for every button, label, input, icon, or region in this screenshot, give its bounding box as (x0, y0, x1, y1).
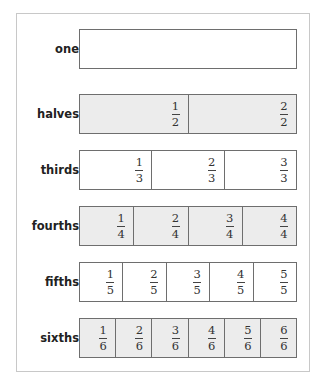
fraction: 44 (278, 212, 290, 241)
denominator: 3 (280, 172, 287, 185)
fraction: 15 (104, 268, 116, 297)
fraction-strips-frame: one halves 12 22 thirds 13 23 33 fourths… (16, 13, 310, 372)
numerator: 1 (100, 324, 107, 337)
strip-cell: 36 (151, 319, 187, 357)
denominator: 2 (280, 116, 287, 129)
strip-cell: 24 (133, 207, 187, 245)
numerator: 3 (226, 212, 233, 225)
denominator: 4 (172, 228, 179, 241)
numerator: 1 (107, 268, 114, 281)
fraction: 12 (170, 100, 182, 129)
strip-cell: 33 (224, 151, 296, 189)
strip-cell: 66 (260, 319, 296, 357)
denominator: 6 (208, 340, 215, 353)
strip-one (79, 29, 297, 69)
fraction: 26 (133, 324, 145, 353)
denominator: 4 (118, 228, 125, 241)
fraction: 45 (235, 268, 247, 297)
fraction: 22 (278, 100, 290, 129)
row-label: fifths (45, 262, 79, 302)
fraction: 24 (170, 212, 182, 241)
strip-thirds: 13 23 33 (79, 150, 297, 190)
row-sixths: sixths 16 26 36 46 56 66 (17, 318, 309, 358)
row-label: thirds (41, 150, 79, 190)
strip-cell: 44 (242, 207, 296, 245)
denominator: 5 (194, 284, 201, 297)
strip-cell: 13 (80, 151, 151, 189)
fraction: 46 (206, 324, 218, 353)
fraction: 34 (224, 212, 236, 241)
strip-cell: 55 (253, 263, 296, 301)
numerator: 4 (237, 268, 244, 281)
numerator: 1 (172, 100, 179, 113)
strip-cell: 14 (80, 207, 133, 245)
fraction: 55 (278, 268, 290, 297)
row-one: one (17, 29, 309, 69)
row-label: one (55, 29, 79, 69)
denominator: 5 (280, 284, 287, 297)
strip-cell: 56 (224, 319, 260, 357)
strip-cell: 45 (209, 263, 252, 301)
denominator: 3 (136, 172, 143, 185)
row-label: sixths (40, 318, 79, 358)
strip-cell: 15 (80, 263, 122, 301)
fraction: 14 (115, 212, 127, 241)
denominator: 4 (226, 228, 233, 241)
row-thirds: thirds 13 23 33 (17, 150, 309, 190)
numerator: 4 (208, 324, 215, 337)
denominator: 6 (136, 340, 143, 353)
numerator: 2 (172, 212, 179, 225)
strip-cell: 34 (188, 207, 242, 245)
numerator: 1 (118, 212, 125, 225)
fraction: 25 (148, 268, 160, 297)
denominator: 2 (172, 116, 179, 129)
fraction: 35 (191, 268, 203, 297)
denominator: 6 (280, 340, 287, 353)
fraction: 36 (170, 324, 182, 353)
numerator: 2 (136, 324, 143, 337)
strip-fourths: 14 24 34 44 (79, 206, 297, 246)
numerator: 5 (244, 324, 251, 337)
numerator: 2 (208, 156, 215, 169)
denominator: 5 (150, 284, 157, 297)
strip-cell: 12 (80, 95, 188, 133)
fraction: 13 (133, 156, 145, 185)
numerator: 3 (172, 324, 179, 337)
fraction: 16 (97, 324, 109, 353)
strip-cell: 46 (188, 319, 224, 357)
denominator: 6 (100, 340, 107, 353)
numerator: 4 (280, 212, 287, 225)
strip-halves: 12 22 (79, 94, 297, 134)
denominator: 3 (208, 172, 215, 185)
strip-sixths: 16 26 36 46 56 66 (79, 318, 297, 358)
strip-cell: 25 (122, 263, 165, 301)
numerator: 2 (150, 268, 157, 281)
numerator: 1 (136, 156, 143, 169)
numerator: 5 (280, 268, 287, 281)
row-fifths: fifths 15 25 35 45 55 (17, 262, 309, 302)
fraction: 33 (278, 156, 290, 185)
fraction: 56 (242, 324, 254, 353)
denominator: 5 (237, 284, 244, 297)
strip-cell: 16 (80, 319, 115, 357)
row-label: fourths (32, 206, 79, 246)
row-label: halves (37, 94, 79, 134)
numerator: 3 (280, 156, 287, 169)
denominator: 6 (244, 340, 251, 353)
denominator: 6 (172, 340, 179, 353)
strip-cell (80, 30, 296, 68)
fraction: 23 (206, 156, 218, 185)
strip-cell: 23 (151, 151, 223, 189)
row-halves: halves 12 22 (17, 94, 309, 134)
fraction: 66 (278, 324, 290, 353)
denominator: 4 (280, 228, 287, 241)
strip-fifths: 15 25 35 45 55 (79, 262, 297, 302)
strip-cell: 35 (166, 263, 209, 301)
numerator: 3 (194, 268, 201, 281)
numerator: 2 (280, 100, 287, 113)
strip-cell: 22 (188, 95, 297, 133)
row-fourths: fourths 14 24 34 44 (17, 206, 309, 246)
denominator: 5 (107, 284, 114, 297)
strip-cell: 26 (115, 319, 151, 357)
numerator: 6 (280, 324, 287, 337)
